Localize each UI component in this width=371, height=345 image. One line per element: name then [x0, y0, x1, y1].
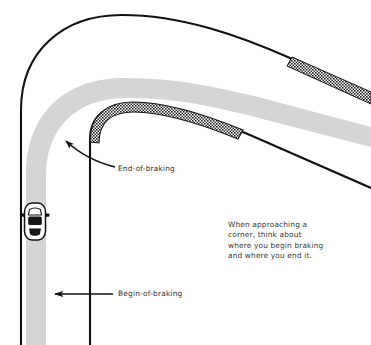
exit-curb-hatched — [287, 57, 371, 104]
track-layout-graphic — [0, 0, 371, 345]
diagram-caption: When approaching a corner, think about w… — [228, 220, 348, 262]
braking-points-diagram: End-of-braking Begin-of-braking When app… — [0, 0, 371, 345]
outer-track-edge-line — [21, 15, 371, 345]
annotation-end-of-braking: End-of-braking — [118, 164, 175, 173]
car-top-view-icon — [21, 203, 50, 240]
annotation-begin-of-braking: Begin-of-braking — [118, 289, 182, 298]
